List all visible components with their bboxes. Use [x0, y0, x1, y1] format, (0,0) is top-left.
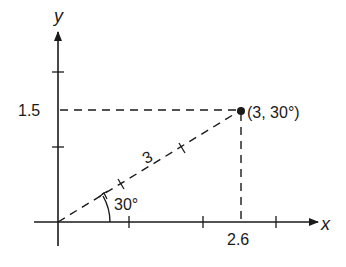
angle-label: 30° — [114, 196, 138, 213]
point-marker — [237, 107, 245, 115]
y-axis: y — [52, 6, 64, 246]
x-axis: x — [34, 214, 331, 234]
y-axis-label: y — [52, 6, 64, 26]
radius-label: 3 — [139, 148, 155, 167]
x-value-label: 2.6 — [227, 231, 249, 248]
point-label: (3, 30°) — [247, 104, 300, 121]
polar-coordinate-diagram: x y (3, 30°) 1.5 2.6 3 30° — [0, 0, 346, 267]
radius-line — [58, 110, 241, 222]
y-value-label: 1.5 — [18, 102, 40, 119]
angle-arc — [103, 196, 110, 222]
x-axis-label: x — [320, 214, 331, 234]
